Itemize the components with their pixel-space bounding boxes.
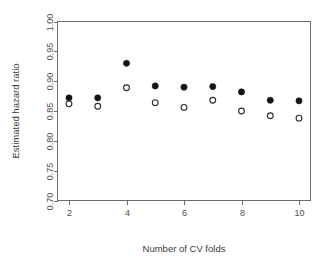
data-point-filled xyxy=(66,95,72,101)
y-axis-ticks: 0.700.750.800.850.900.951.00 xyxy=(45,14,58,211)
x-tick-label: 6 xyxy=(182,208,187,218)
data-point-layer xyxy=(66,60,302,121)
data-point-open xyxy=(95,103,101,109)
data-point-open xyxy=(124,85,130,91)
y-tick-label: 0.80 xyxy=(45,133,55,151)
y-tick-label: 0.85 xyxy=(45,103,55,121)
x-tick-label: 8 xyxy=(240,208,245,218)
data-point-filled xyxy=(267,97,273,103)
x-tick-label: 4 xyxy=(125,208,130,218)
data-point-open xyxy=(181,105,187,111)
scatter-plot-figure: 0.700.750.800.850.900.951.00 246810 Numb… xyxy=(0,0,334,265)
y-tick-label: 0.95 xyxy=(45,43,55,61)
data-point-filled xyxy=(123,60,129,66)
data-point-filled xyxy=(152,83,158,89)
data-point-filled xyxy=(181,84,187,90)
y-axis-title: Estimated hazard ratio xyxy=(10,63,21,158)
data-point-open xyxy=(267,113,273,119)
data-point-filled xyxy=(238,89,244,95)
plot-canvas: 0.700.750.800.850.900.951.00 246810 Numb… xyxy=(0,0,334,265)
x-tick-label: 10 xyxy=(294,208,304,218)
y-tick-label: 0.90 xyxy=(45,73,55,91)
data-point-open xyxy=(152,100,158,106)
x-tick-label: 2 xyxy=(67,208,72,218)
data-point-open xyxy=(239,108,245,114)
data-point-filled xyxy=(95,95,101,101)
x-axis-title: Number of CV folds xyxy=(143,243,226,254)
plot-frame xyxy=(58,22,311,201)
data-point-open xyxy=(210,97,216,103)
data-point-filled xyxy=(210,83,216,89)
x-axis-ticks: 246810 xyxy=(67,201,305,218)
y-tick-label: 1.00 xyxy=(45,14,55,32)
y-tick-label: 0.75 xyxy=(45,163,55,181)
data-point-open xyxy=(66,101,72,107)
data-point-filled xyxy=(296,98,302,104)
data-point-open xyxy=(296,115,302,121)
y-tick-label: 0.70 xyxy=(45,193,55,211)
